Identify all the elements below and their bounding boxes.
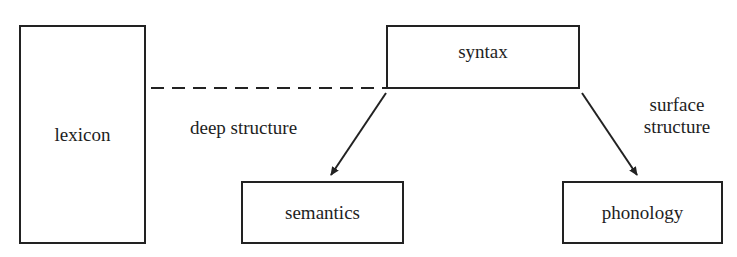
phonology-box: phonology — [562, 181, 723, 244]
surface-label-line2: structure — [622, 116, 732, 138]
lexicon-label: lexicon — [55, 124, 111, 146]
syntax-label: syntax — [458, 41, 508, 63]
semantics-box: semantics — [241, 181, 404, 244]
phonology-label: phonology — [602, 202, 683, 224]
semantics-label: semantics — [285, 202, 360, 224]
deep-structure-label: deep structure — [190, 117, 297, 139]
surface-label-line1: surface — [622, 94, 732, 116]
surface-structure-label: surface structure — [622, 94, 732, 138]
syntax-box: syntax — [386, 25, 580, 89]
deep-structure-arrow — [331, 93, 386, 175]
lexicon-box: lexicon — [19, 25, 146, 244]
